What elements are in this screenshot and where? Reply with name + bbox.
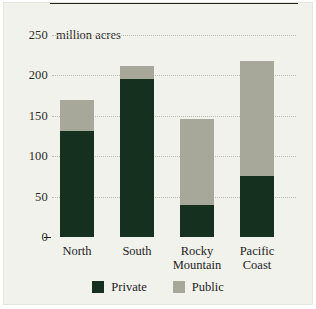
y-tick-100: 100 [4, 150, 48, 162]
chart-panel: million acres 050100150200250 NorthSouth… [4, 3, 312, 304]
y-tick-250: 250 [4, 29, 48, 41]
legend-label-private: Private [111, 281, 146, 294]
legend-swatch-public-icon [173, 281, 185, 293]
x-axis-line [50, 3, 298, 4]
segment-public [240, 61, 274, 176]
segment-public [60, 100, 94, 132]
y-tick-label-250: 250 [6, 29, 48, 42]
stacked-bar-chart: million acres 050100150200250 NorthSouth… [4, 3, 312, 304]
y-axis-tick-mark [44, 237, 51, 238]
y-tick-label-150: 150 [6, 110, 48, 123]
x-label-line: Coast [214, 258, 300, 272]
y-tick-150: 150 [4, 110, 48, 122]
y-tick-200: 200 [4, 69, 48, 81]
x-label-line: Pacific [214, 244, 300, 258]
x-label-pacific-coast: PacificCoast [214, 244, 300, 272]
segment-private [240, 176, 274, 237]
bar-north [60, 100, 94, 237]
segment-public [120, 66, 154, 80]
bar-rocky-mountain [180, 119, 214, 237]
legend-item-private: Private [92, 281, 146, 294]
segment-public [180, 119, 214, 205]
segment-private [180, 205, 214, 237]
legend-label-public: Public [192, 281, 224, 294]
chart-legend: Private Public [4, 281, 312, 294]
segment-private [60, 131, 94, 237]
y-tick-label-200: 200 [6, 69, 48, 82]
y-tick-0: 0 [4, 231, 48, 243]
bar-pacific-coast [240, 61, 274, 237]
segment-private [120, 79, 154, 237]
legend-item-public: Public [173, 281, 224, 294]
y-tick-label-50: 50 [6, 191, 48, 204]
y-tick-50: 50 [4, 191, 48, 203]
y-tick-label-0: 0 [6, 231, 48, 244]
legend-swatch-private-icon [92, 281, 104, 293]
bar-south [120, 66, 154, 237]
y-tick-label-100: 100 [6, 150, 48, 163]
gridline-250 [52, 35, 296, 36]
